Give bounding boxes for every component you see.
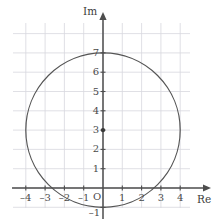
- plotted-point: [101, 128, 105, 132]
- y-axis-tick-label: 6: [93, 67, 99, 77]
- y-axis-tick-label: 2: [93, 144, 99, 154]
- origin-label: O: [93, 192, 101, 202]
- y-axis-tick-label: 1: [93, 164, 99, 174]
- x-axis-tick-label: –2: [59, 193, 70, 203]
- x-axis-tick-label: –4: [20, 193, 31, 203]
- y-axis-tick-label: 5: [93, 87, 99, 97]
- imaginary-axis-label: Im: [83, 6, 97, 17]
- real-axis-label: Re: [197, 194, 211, 205]
- x-axis-tick-label: 2: [138, 193, 144, 203]
- y-axis-tick-label: 4: [93, 106, 99, 116]
- imaginary-axis-arrowhead: [99, 12, 106, 20]
- plot-canvas: [0, 0, 221, 223]
- y-axis-tick-label: 7: [93, 48, 99, 58]
- x-axis-tick-label: 1: [119, 193, 125, 203]
- grid-lines: [13, 23, 190, 208]
- point-marker: [101, 128, 105, 132]
- x-axis-tick-label: 4: [177, 193, 183, 203]
- real-axis-arrowhead: [203, 184, 211, 191]
- x-axis-tick-label: –3: [39, 193, 50, 203]
- argand-diagram-figure: –4–3–2–11234–11234567O Im Re: [0, 0, 221, 223]
- x-axis-tick-label: 3: [158, 193, 164, 203]
- y-axis-tick-label: –1: [89, 208, 100, 218]
- x-axis-tick-label: –1: [78, 193, 89, 203]
- y-axis-tick-label: 3: [93, 125, 99, 135]
- axis-lines: [12, 12, 211, 219]
